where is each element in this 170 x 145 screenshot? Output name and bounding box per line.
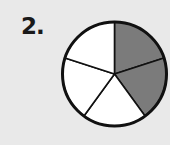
fraction-circle [0,0,170,145]
